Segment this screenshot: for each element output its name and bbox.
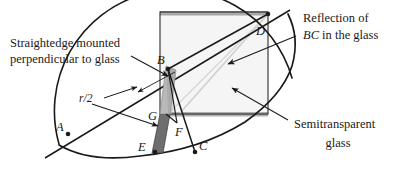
straightedge-callout-line1: Straightedge mounted — [10, 36, 121, 50]
diagram-canvas: A B C D E F G r/2 Straightedge mounted p… — [0, 0, 405, 169]
point-dot-A — [66, 132, 71, 137]
point-label-D: D — [255, 24, 265, 38]
point-label-C: C — [199, 139, 208, 153]
point-label-E: E — [137, 140, 146, 154]
point-dot-E — [153, 150, 158, 155]
point-dot-C — [193, 150, 198, 155]
point-dot-B — [166, 67, 171, 72]
straightedge-callout-line2: perpendicular to glass — [10, 52, 120, 66]
reflection-callout-line2: BC in the glass — [303, 28, 378, 42]
geometry-figure: A B C D E F G r/2 Straightedge mounted p… — [0, 0, 405, 169]
point-label-F: F — [174, 125, 183, 139]
reflection-callout-bc: BC — [303, 28, 320, 42]
point-label-B: B — [157, 53, 165, 67]
reflection-callout-rest: in the glass — [319, 28, 379, 42]
glass-callout-line1: Semitransparent — [294, 117, 376, 131]
radius-half-label: r/2 — [79, 92, 93, 104]
leader-r-half — [104, 87, 137, 98]
glass-callout-line2: glass — [326, 136, 351, 150]
reflection-callout-line1: Reflection of — [303, 11, 369, 25]
point-dot-D — [266, 12, 271, 17]
point-label-G: G — [148, 109, 157, 123]
point-label-A: A — [55, 120, 64, 134]
